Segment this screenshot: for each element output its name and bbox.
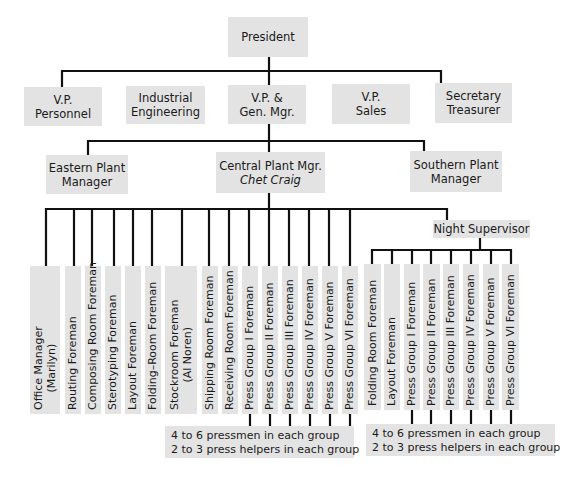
vp-personnel-box[interactable]: V.P. Personnel: [24, 87, 102, 126]
box-label: Sales: [356, 104, 387, 118]
southern-plant-manager-box[interactable]: Southern Plant Manager: [410, 151, 502, 192]
press-group-1-foreman-box[interactable]: Press Group I Foreman: [242, 266, 258, 414]
box-label: Routing Foreman: [66, 316, 79, 410]
routing-foreman-box[interactable]: Routing Foreman: [65, 266, 81, 414]
box-label: (Marilyn): [45, 326, 58, 410]
box-label: Sterotyping Foreman: [106, 294, 119, 410]
press-group-3-foreman-box[interactable]: Press Group III Foreman: [282, 266, 298, 414]
note-line: 2 to 3 press helpers in each group: [372, 441, 549, 455]
shipping-room-foreman-box[interactable]: Shipping Room Foreman: [202, 266, 218, 414]
box-label: V.P.: [362, 90, 381, 104]
box-label: Engineering: [131, 105, 200, 119]
night-layout-foreman-box[interactable]: Layout Foreman: [384, 264, 400, 410]
box-label: V.P.: [54, 93, 73, 107]
box-label: Manager: [62, 175, 112, 189]
box-label: V.P. &: [251, 91, 282, 105]
vp-gen-mgr-box[interactable]: V.P. & Gen. Mgr.: [228, 85, 306, 124]
box-label: Secretary: [446, 89, 501, 103]
president-box[interactable]: President: [228, 17, 308, 57]
box-label: Stockroom Foreman: [168, 299, 181, 410]
vp-sales-box[interactable]: V.P. Sales: [332, 84, 410, 124]
box-label: Central Plant Mgr.: [219, 159, 322, 173]
layout-foreman-box[interactable]: Layout Foreman: [125, 266, 141, 414]
box-label: Folding Room Foreman: [366, 280, 379, 406]
box-label: Press Group II Foreman: [263, 282, 276, 410]
central-plant-manager-box[interactable]: Central Plant Mgr. Chet Craig: [216, 152, 325, 193]
press-group-4-foreman-box[interactable]: Press Group IV Foreman: [302, 266, 318, 414]
box-label: Layout Foreman: [385, 317, 398, 406]
receiving-room-foreman-box[interactable]: Receiving Room Foreman: [222, 266, 238, 414]
box-label: Composing Room Foreman: [86, 262, 99, 410]
box-label: Office Manager: [32, 326, 45, 410]
sterotyping-foreman-box[interactable]: Sterotyping Foreman: [105, 266, 121, 414]
night-press-group-2-foreman-box[interactable]: Press Group II Foreman: [423, 264, 440, 410]
box-label: Receiving Room Foreman: [223, 270, 236, 410]
box-label: Eastern Plant: [49, 161, 125, 175]
president-label: President: [241, 30, 295, 44]
note-line: 4 to 6 pressmen in each group: [372, 427, 549, 441]
box-label: Press Group IV Foreman: [464, 274, 477, 406]
press-group-2-foreman-box[interactable]: Press Group II Foreman: [262, 266, 278, 414]
industrial-engineering-box[interactable]: Industrial Engineering: [126, 86, 205, 124]
box-label: Layout Foreman: [126, 321, 139, 410]
night-folding-room-foreman-box[interactable]: Folding Room Foreman: [364, 264, 381, 410]
box-label: Folding–Room Foreman: [146, 282, 159, 410]
box-label: Southern Plant: [414, 158, 499, 172]
night-press-group-6-foreman-box[interactable]: Press Group VI Foreman: [502, 264, 519, 410]
eastern-plant-manager-box[interactable]: Eastern Plant Manager: [46, 155, 128, 194]
box-label: Gen. Mgr.: [239, 105, 294, 119]
box-label: Press Group VI Foreman: [343, 278, 356, 410]
box-label: Shipping Room Foreman: [203, 276, 216, 410]
box-label: Press Group VI Foreman: [504, 274, 517, 406]
box-label: Press Group V Foreman: [323, 281, 336, 410]
box-label: Press Group I Foreman: [243, 286, 256, 410]
box-label: Press Group II Foreman: [425, 278, 438, 406]
composing-room-foreman-box[interactable]: Composing Room Foreman: [85, 266, 101, 414]
box-label: Press Group III Foreman: [283, 279, 296, 410]
box-label: Press Group III Foreman: [444, 275, 457, 406]
box-label: (Al Noren): [181, 299, 194, 410]
secretary-treasurer-box[interactable]: Secretary Treasurer: [435, 83, 512, 123]
night-supervisor-box[interactable]: Night Supervisor: [433, 220, 530, 238]
note-line: 4 to 6 pressmen in each group: [171, 429, 348, 443]
day-press-crew-note: 4 to 6 pressmen in each group 2 to 3 pre…: [165, 426, 354, 458]
note-line: 2 to 3 press helpers in each group: [171, 443, 348, 457]
box-label: Industrial: [139, 91, 193, 105]
night-press-group-3-foreman-box[interactable]: Press Group III Foreman: [443, 264, 459, 410]
box-label: Press Group V Foreman: [484, 277, 497, 406]
box-label: Personnel: [35, 107, 91, 121]
box-label: Manager: [431, 172, 481, 186]
night-press-crew-note: 4 to 6 pressmen in each group 2 to 3 pre…: [366, 424, 555, 456]
night-press-group-1-foreman-box[interactable]: Press Group I Foreman: [404, 264, 420, 410]
folding-room-foreman-box[interactable]: Folding–Room Foreman: [145, 266, 161, 414]
box-label: Night Supervisor: [434, 222, 530, 236]
night-press-group-4-foreman-box[interactable]: Press Group IV Foreman: [463, 264, 479, 410]
box-label: Press Group I Foreman: [405, 282, 418, 406]
press-group-6-foreman-box[interactable]: Press Group VI Foreman: [342, 266, 358, 414]
office-manager-box[interactable]: Office Manager(Marilyn): [30, 266, 60, 414]
press-group-5-foreman-box[interactable]: Press Group V Foreman: [322, 266, 338, 414]
box-label: Press Group IV Foreman: [303, 278, 316, 410]
night-press-group-5-foreman-box[interactable]: Press Group V Foreman: [483, 264, 499, 410]
box-label: Treasurer: [447, 103, 501, 117]
manager-name: Chet Craig: [240, 173, 301, 187]
stockroom-foreman-box[interactable]: Stockroom Foreman(Al Noren): [165, 266, 197, 414]
